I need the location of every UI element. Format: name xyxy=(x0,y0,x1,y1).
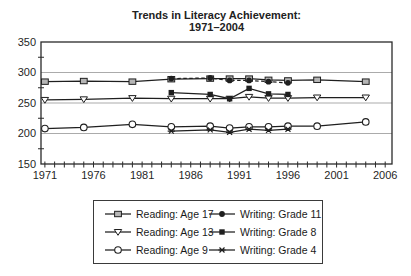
x-axis-tick-label: 1981 xyxy=(130,169,154,181)
x-axis-tick-label: 1991 xyxy=(227,169,251,181)
legend-item-label: Reading: Age 13 xyxy=(136,226,214,238)
legend-item: Writing: Grade 8 xyxy=(207,223,321,241)
legend-item-label: Reading: Age 9 xyxy=(136,244,208,256)
y-axis-tick-label: 150 xyxy=(18,158,36,170)
legend-marker-triangle-open-icon xyxy=(103,226,133,238)
y-axis-tick-label: 200 xyxy=(18,127,36,139)
legend-item: Writing: Grade 4 xyxy=(207,241,321,259)
x-axis-tick-label: 1996 xyxy=(276,169,300,181)
x-axis-tick-label: 1976 xyxy=(81,169,105,181)
x-axis-tick-label: 1986 xyxy=(178,169,202,181)
legend-item-label: Writing: Grade 4 xyxy=(240,244,316,256)
legend-item-label: Writing: Grade 8 xyxy=(240,226,316,238)
legend-item: Reading: Age 17 xyxy=(103,205,207,223)
y-axis-tick-label: 250 xyxy=(18,97,36,109)
chart-title-line1: Trends in Literacy Achievement: xyxy=(22,10,411,22)
x-axis-tick-label: 2001 xyxy=(324,169,348,181)
x-axis-tick-label: 2006 xyxy=(373,169,397,181)
legend-marker-square-filled-icon xyxy=(207,226,237,238)
legend-item: Reading: Age 9 xyxy=(103,241,207,259)
line-chart: 1502002503003501971197619811986199119962… xyxy=(0,36,411,190)
y-axis-tick-label: 300 xyxy=(18,66,36,78)
y-axis-tick-label: 350 xyxy=(18,36,36,48)
legend-item-label: Reading: Age 17 xyxy=(136,208,214,220)
x-axis-tick-label: 1971 xyxy=(33,169,57,181)
chart-legend: Reading: Age 17Reading: Age 13Reading: A… xyxy=(93,200,323,264)
legend-item-label: Writing: Grade 11 xyxy=(240,208,321,220)
literacy-trends-figure: Trends in Literacy Achievement: 1971–200… xyxy=(0,0,411,276)
legend-marker-star-icon xyxy=(207,244,237,256)
chart-title: Trends in Literacy Achievement: 1971–200… xyxy=(0,10,411,33)
legend-marker-square-open-icon xyxy=(103,208,133,220)
legend-item: Writing: Grade 11 xyxy=(207,205,321,223)
chart-title-line2: 1971–2004 xyxy=(22,22,411,34)
legend-marker-circle-open-icon xyxy=(103,244,133,256)
legend-marker-circle-filled-icon xyxy=(207,208,237,220)
legend-item: Reading: Age 13 xyxy=(103,223,207,241)
